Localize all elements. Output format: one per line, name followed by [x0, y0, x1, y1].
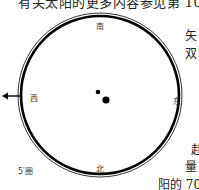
side-text-2: 双	[185, 44, 197, 61]
side-text-1: 矢	[185, 26, 197, 43]
side-text-5: 阳的 70	[158, 175, 199, 190]
side-text-4: 量	[185, 157, 197, 174]
left-arrow-icon	[2, 93, 20, 100]
direction-east: 东	[173, 96, 181, 106]
side-text-3: 赴	[191, 140, 199, 157]
direction-west: 西	[30, 94, 38, 103]
direction-south: 南	[96, 21, 104, 31]
large-dot-star	[102, 96, 109, 103]
field-circle	[21, 16, 179, 174]
direction-north: 北	[96, 165, 104, 174]
sky-chart-diagram: 南 北 西 东 5′圈	[0, 0, 199, 190]
scale-label: 5′圈	[18, 167, 33, 176]
small-dot-star	[96, 90, 101, 95]
